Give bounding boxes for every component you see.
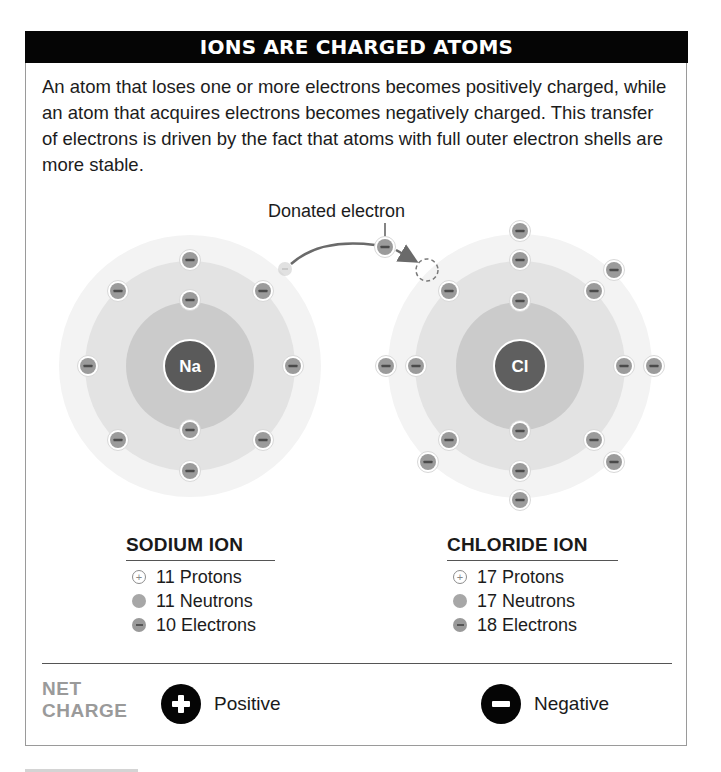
- sodium-symbol: Na: [179, 357, 201, 376]
- net-charge-label: NET CHARGE: [42, 678, 127, 722]
- legend-row-neutrons: 17 Neutrons: [447, 589, 618, 613]
- legend-row-neutrons: 11 Neutrons: [126, 589, 275, 613]
- sodium-ion-title: SODIUM ION: [126, 534, 275, 561]
- negative-label: Negative: [534, 693, 609, 715]
- transfer-arc: [291, 244, 375, 264]
- negative-charge: Negative: [481, 684, 609, 724]
- net-charge-label-line1: NET: [42, 678, 127, 700]
- positive-charge: Positive: [161, 684, 281, 724]
- chloride-ion-legend: CHLORIDE ION + 17 Protons 17 Neutrons 18…: [447, 534, 618, 637]
- neutron-icon: [132, 594, 146, 608]
- proton-icon: +: [453, 570, 467, 584]
- transfer-arrow-icon: [396, 250, 412, 259]
- minus-icon: [481, 684, 521, 724]
- legend-row-protons: + 11 Protons: [126, 565, 275, 589]
- legend-label: 11 Neutrons: [156, 591, 253, 612]
- electron-icon: [453, 618, 467, 632]
- net-charge-label-line2: CHARGE: [42, 700, 127, 722]
- legend-label: 10 Electrons: [156, 615, 256, 636]
- donated-electron-label: Donated electron: [268, 201, 405, 222]
- proton-icon: +: [132, 570, 146, 584]
- plus-icon: [161, 684, 201, 724]
- legend-label: 17 Protons: [477, 567, 564, 588]
- electron-icon: [132, 618, 146, 632]
- legend-label: 18 Electrons: [477, 615, 577, 636]
- legend-label: 17 Neutrons: [477, 591, 575, 612]
- legend-row-electrons: 10 Electrons: [126, 613, 275, 637]
- chlorine-atom: Cl: [376, 221, 665, 511]
- legend-label: 11 Protons: [156, 567, 242, 588]
- sodium-ion-legend: SODIUM ION + 11 Protons 11 Neutrons 10 E…: [126, 534, 275, 637]
- sodium-atom: Na: [59, 235, 321, 497]
- section-divider: [42, 663, 672, 664]
- legend-row-electrons: 18 Electrons: [447, 613, 618, 637]
- neutron-icon: [453, 594, 467, 608]
- positive-label: Positive: [214, 693, 281, 715]
- departed-electron-ghost-icon: [278, 262, 292, 276]
- donated-electron-icon: [375, 237, 396, 258]
- legend-row-protons: + 17 Protons: [447, 565, 618, 589]
- chloride-ion-title: CHLORIDE ION: [447, 534, 618, 561]
- chlorine-symbol: Cl: [512, 357, 529, 376]
- ion-transfer-diagram: Na Cl: [0, 0, 721, 772]
